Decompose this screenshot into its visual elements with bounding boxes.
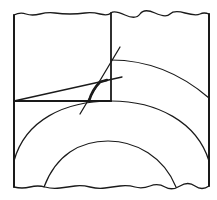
bottom-break-line: [14, 184, 209, 189]
inner-arc: [44, 141, 176, 187]
upper-arc: [111, 60, 209, 98]
geometric-diagram: [0, 0, 217, 200]
steep-line: [80, 47, 120, 114]
middle-arc: [14, 101, 209, 161]
